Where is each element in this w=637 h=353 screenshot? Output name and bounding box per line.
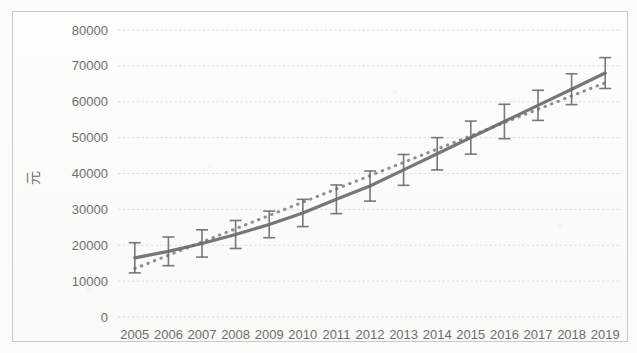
y-axis-tick-label: 50000 — [72, 130, 108, 145]
y-axis-tick-label: 70000 — [72, 58, 108, 73]
y-axis-tick-label: 0 — [101, 310, 108, 325]
x-axis-tick-label: 2007 — [188, 327, 217, 342]
figure-container: 8000070000600005000040000300002000010000… — [0, 0, 637, 353]
x-axis-tick-label: 2009 — [255, 327, 284, 342]
y-axis-tick-label: 40000 — [72, 166, 108, 181]
y-axis-tick-label: 80000 — [72, 23, 108, 38]
y-axis-title-group: 元 — [25, 171, 41, 185]
x-axis-tick-label: 2016 — [490, 327, 519, 342]
x-axis-tick-label: 2017 — [524, 327, 553, 342]
x-axis-tick-label: 2015 — [456, 327, 485, 342]
x-axis-tick-label: 2012 — [356, 327, 385, 342]
x-axis-tick-label: 2006 — [154, 327, 183, 342]
x-axis-tick-label: 2011 — [322, 327, 350, 342]
x-axis-tick-label: 2014 — [423, 327, 452, 342]
error-bar-group — [129, 58, 611, 273]
y-axis-title: 元 — [25, 171, 41, 185]
x-axis-tick-label: 2013 — [389, 327, 418, 342]
y-axis-tick-labels: 8000070000600005000040000300002000010000… — [72, 23, 108, 325]
y-axis-tick-label: 10000 — [72, 274, 108, 289]
x-axis-tick-label: 2010 — [288, 327, 317, 342]
y-axis-tick-label: 20000 — [72, 238, 108, 253]
x-axis-tick-label: 2019 — [591, 327, 620, 342]
y-axis-tick-label: 60000 — [72, 94, 108, 109]
x-axis-tick-labels: 2005200620072008200920102011201220132014… — [120, 327, 619, 342]
x-axis-tick-label: 2005 — [120, 327, 149, 342]
x-axis-tick-label: 2018 — [557, 327, 586, 342]
y-axis-tick-label: 30000 — [72, 202, 108, 217]
line-chart: 8000070000600005000040000300002000010000… — [0, 0, 637, 353]
x-axis-tick-label: 2008 — [221, 327, 250, 342]
